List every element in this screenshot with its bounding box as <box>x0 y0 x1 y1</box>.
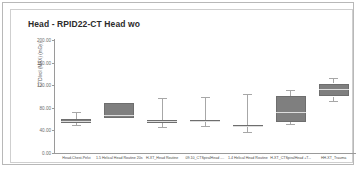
x-tick-label: 09.10_CTSpiralHead -... <box>186 156 225 160</box>
median-line <box>319 89 349 90</box>
whisker-cap-upper <box>243 94 252 95</box>
box-plot-item[interactable] <box>61 40 91 153</box>
whisker-upper <box>162 98 163 121</box>
plot-area <box>55 40 355 153</box>
x-tick-label: 1.4 Helical Head Routine <box>228 156 268 160</box>
whisker-cap-upper <box>72 112 81 113</box>
whisker-cap-lower <box>329 101 338 102</box>
box-iqr[interactable] <box>104 103 134 118</box>
y-tick-label: 120.00 <box>37 83 51 88</box>
whisker-cap-lower <box>286 124 295 125</box>
whisker-cap-lower <box>243 132 252 133</box>
whisker-cap-upper <box>329 78 338 79</box>
y-tick-label: 200.00 <box>37 38 51 43</box>
box-plot-item[interactable] <box>147 40 177 153</box>
y-tick-mark <box>52 40 54 41</box>
chart-title: Head - RPID22-CT Head wo <box>28 19 140 29</box>
y-tick-mark <box>52 63 54 64</box>
box-plot-item[interactable] <box>104 40 134 153</box>
y-tick-label: 80.00 <box>40 105 52 110</box>
box-plot-item[interactable] <box>319 40 349 153</box>
box-plot-item[interactable] <box>276 40 306 153</box>
y-tick-mark <box>52 130 54 131</box>
box-plot-item[interactable] <box>233 40 263 153</box>
median-line <box>233 126 263 127</box>
whisker-cap-upper <box>158 98 167 99</box>
whisker-upper <box>205 97 206 120</box>
y-tick-label: 0.00 <box>42 151 51 156</box>
x-tick-label: H-XT_Head Routine <box>146 156 178 160</box>
y-tick-mark <box>52 153 54 154</box>
median-line <box>104 115 134 116</box>
whisker-cap-lower <box>201 126 210 127</box>
y-tick-mark <box>52 85 54 86</box>
median-line <box>190 121 220 122</box>
median-line <box>147 121 177 122</box>
chart-card: Head - RPID22-CT Head wo CTDIvol (MAX) (… <box>10 9 353 163</box>
median-line <box>276 112 306 113</box>
whisker-cap-upper <box>201 97 210 98</box>
y-tick-mark <box>52 108 54 109</box>
box-iqr[interactable] <box>276 96 306 123</box>
x-axis-line <box>54 153 356 154</box>
median-line <box>61 121 91 122</box>
y-tick-label: 40.00 <box>40 128 52 133</box>
whisker-cap-lower <box>158 127 167 128</box>
y-tick-label: 160.00 <box>37 60 51 65</box>
whisker-cap-lower <box>72 125 81 126</box>
whisker-upper <box>76 112 77 119</box>
whisker-cap-upper <box>286 90 295 91</box>
x-tick-label: 1.5 Helical Head Routine 20s <box>96 156 143 160</box>
x-tick-label: HH-XT_Trauma <box>321 156 346 160</box>
box-plot-item[interactable] <box>190 40 220 153</box>
x-tick-label: H-XT_CTSpiralHead +T... <box>270 156 311 160</box>
screenshot-outer-frame: Head - RPID22-CT Head wo CTDIvol (MAX) (… <box>2 2 354 165</box>
x-tick-label: Head-Chest-Pelvi <box>62 156 90 160</box>
whisker-upper <box>247 94 248 125</box>
